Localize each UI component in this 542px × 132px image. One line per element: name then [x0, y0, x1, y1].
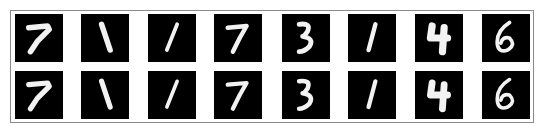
digit-1-icon — [81, 14, 129, 62]
digit-7-icon — [214, 71, 262, 119]
digit-image-reconstructed-7 — [482, 71, 530, 119]
digit-7-icon — [214, 14, 262, 62]
digit-image-reconstructed-1 — [81, 71, 129, 119]
digit-image-reconstructed-3 — [214, 71, 262, 119]
digit-7-icon — [15, 14, 63, 62]
digit-image-original-1 — [81, 14, 129, 62]
digit-3-icon — [282, 71, 330, 119]
digit-1-icon — [148, 71, 196, 119]
digit-3-icon — [282, 14, 330, 62]
digit-image-reconstructed-4 — [282, 71, 330, 119]
digit-4-icon — [415, 14, 463, 62]
digit-image-reconstructed-6 — [415, 71, 463, 119]
digit-image-original-4 — [282, 14, 330, 62]
digit-image-original-7 — [482, 14, 530, 62]
digit-image-original-3 — [214, 14, 262, 62]
digit-image-reconstructed-5 — [348, 71, 396, 119]
digit-image-original-5 — [348, 14, 396, 62]
digit-image-original-2 — [148, 14, 196, 62]
digit-1-icon — [348, 14, 396, 62]
digit-4-icon — [415, 71, 463, 119]
digit-7-icon — [15, 71, 63, 119]
digit-image-reconstructed-0 — [15, 71, 63, 119]
digit-1-icon — [81, 71, 129, 119]
digit-1-icon — [148, 14, 196, 62]
digit-1-icon — [348, 71, 396, 119]
digit-image-original-6 — [415, 14, 463, 62]
digit-6-icon — [482, 71, 530, 119]
digit-6-icon — [482, 14, 530, 62]
digit-image-reconstructed-2 — [148, 71, 196, 119]
digit-image-original-0 — [15, 14, 63, 62]
